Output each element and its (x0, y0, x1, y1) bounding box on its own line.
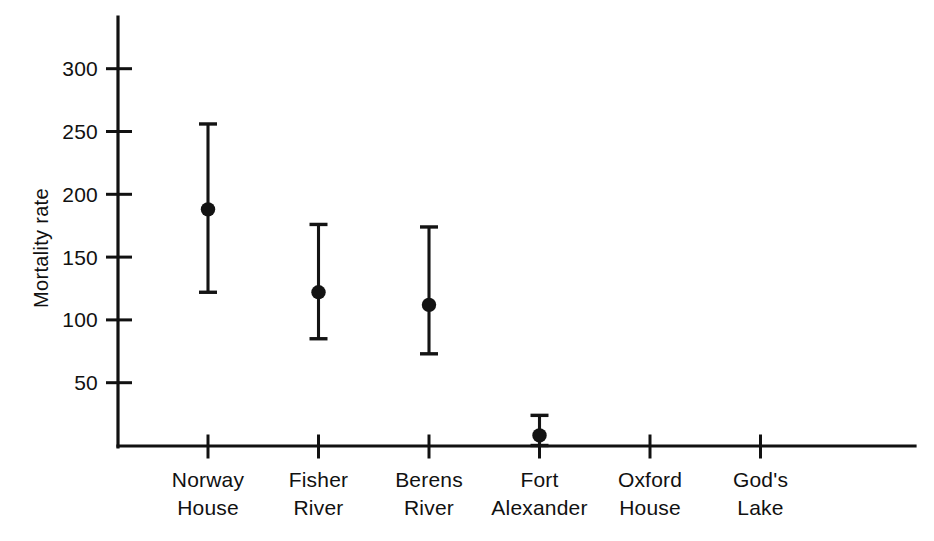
error-bar-fisher-river (310, 224, 328, 338)
x-category-label-group: NorwayHouseFisherRiverBerensRiverFortAle… (172, 468, 788, 519)
error-bar-series (199, 124, 549, 446)
x-category-label-fisher-river: Fisher (289, 468, 349, 491)
data-point-fort-alexander (532, 428, 546, 442)
x-category-label-oxford-house: Oxford (618, 468, 682, 491)
x-category-label-norway-house: Norway (172, 468, 245, 491)
x-category-label-fisher-river: River (293, 496, 343, 519)
y-tick-label-250: 250 (62, 120, 98, 143)
x-category-label-god-s-lake: God's (733, 468, 788, 491)
x-category-label-oxford-house: House (619, 496, 681, 519)
x-category-label-fort-alexander: Fort (520, 468, 558, 491)
data-point-berens-river (422, 298, 436, 312)
y-axis-title-group: Mortality rate (30, 188, 52, 308)
error-bar-fort-alexander (531, 415, 549, 445)
error-bar-norway-house (199, 124, 217, 292)
x-category-label-god-s-lake: Lake (737, 496, 783, 519)
y-tick-label-50: 50 (74, 371, 98, 394)
y-tick-label-100: 100 (62, 308, 98, 331)
x-category-label-norway-house: House (177, 496, 239, 519)
y-tick-label-150: 150 (62, 246, 98, 269)
y-tick-label-200: 200 (62, 183, 98, 206)
x-category-label-berens-river: Berens (395, 468, 463, 491)
y-tick-label-300: 300 (62, 57, 98, 80)
y-axis-title: Mortality rate (30, 188, 52, 308)
x-category-label-fort-alexander: Alexander (491, 496, 587, 519)
chart-canvas: 50100150200250300 NorwayHouseFisherRiver… (0, 0, 934, 541)
error-bar-berens-river (420, 227, 438, 354)
mortality-rate-chart: 50100150200250300 NorwayHouseFisherRiver… (0, 0, 934, 541)
data-point-norway-house (201, 202, 215, 216)
data-point-fisher-river (311, 285, 325, 299)
y-tick-group: 50100150200250300 (62, 57, 132, 394)
x-category-label-berens-river: River (404, 496, 454, 519)
